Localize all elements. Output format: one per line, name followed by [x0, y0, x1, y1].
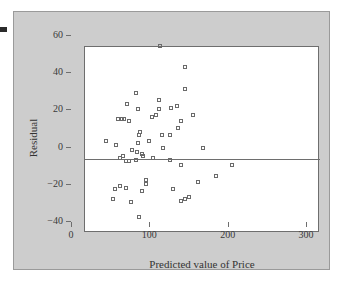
y-axis-title: Residual	[27, 108, 39, 168]
data-point-marker	[191, 113, 195, 117]
data-point-marker	[134, 158, 138, 162]
data-point-marker	[113, 187, 117, 191]
data-point-marker	[158, 44, 162, 48]
data-point-marker	[157, 98, 161, 102]
data-point-marker	[135, 150, 139, 154]
x-tick-mark	[306, 222, 307, 227]
data-point-marker	[124, 186, 128, 190]
x-tick-label: 300	[286, 230, 326, 240]
data-point-marker	[140, 189, 144, 193]
x-tick-mark	[71, 222, 72, 227]
y-tick-label: −40	[23, 216, 63, 226]
x-tick-mark	[228, 222, 229, 227]
data-point-marker	[147, 139, 151, 143]
plot-area	[84, 46, 319, 232]
y-tick-mark	[66, 184, 71, 185]
y-tick-label: 40	[23, 67, 63, 77]
y-tick-mark	[66, 35, 71, 36]
data-point-marker	[118, 156, 122, 160]
data-point-marker	[168, 158, 172, 162]
data-point-marker	[122, 117, 126, 121]
data-point-marker	[137, 133, 141, 137]
data-point-marker	[114, 143, 118, 147]
data-point-marker	[134, 91, 138, 95]
x-tick-label: 100	[129, 230, 169, 240]
data-point-marker	[141, 154, 145, 158]
data-point-marker	[104, 139, 108, 143]
data-point-marker	[161, 146, 165, 150]
data-point-marker	[183, 87, 187, 91]
y-tick-mark	[66, 109, 71, 110]
data-point-marker	[187, 195, 191, 199]
data-point-marker	[160, 133, 164, 137]
data-point-marker	[127, 119, 131, 123]
data-point-marker	[154, 113, 158, 117]
data-point-marker	[137, 215, 141, 219]
data-point-marker	[171, 187, 175, 191]
margin-tick-mark	[0, 27, 7, 32]
data-point-marker	[144, 182, 148, 186]
data-point-marker	[136, 107, 140, 111]
data-point-marker	[230, 163, 234, 167]
data-point-marker	[214, 174, 218, 178]
x-tick-mark	[149, 222, 150, 227]
data-point-marker	[111, 197, 115, 201]
y-tick-mark	[66, 147, 71, 148]
data-point-marker	[201, 146, 205, 150]
data-point-marker	[169, 106, 173, 110]
data-point-marker	[179, 119, 183, 123]
data-point-marker	[183, 65, 187, 69]
data-point-marker	[127, 159, 131, 163]
data-point-marker	[168, 133, 172, 137]
data-point-marker	[179, 163, 183, 167]
data-point-marker	[130, 148, 134, 152]
data-point-marker	[136, 141, 140, 145]
scatter-plot-figure: −40−200204060 0100200300 Predicted value…	[0, 0, 342, 286]
x-tick-label: 200	[208, 230, 248, 240]
figure-panel: −40−200204060 0100200300 Predicted value…	[13, 11, 330, 270]
data-point-marker	[125, 102, 129, 106]
y-tick-label: −20	[23, 179, 63, 189]
y-tick-label: 60	[23, 30, 63, 40]
x-axis-title: Predicted value of Price	[84, 258, 320, 270]
data-point-marker	[129, 200, 133, 204]
data-point-marker	[151, 156, 155, 160]
data-point-marker	[175, 104, 179, 108]
y-tick-mark	[66, 72, 71, 73]
data-point-marker	[176, 126, 180, 130]
x-tick-label: 0	[51, 230, 91, 240]
data-point-marker	[157, 107, 161, 111]
data-point-marker	[196, 180, 200, 184]
data-point-marker	[118, 184, 122, 188]
